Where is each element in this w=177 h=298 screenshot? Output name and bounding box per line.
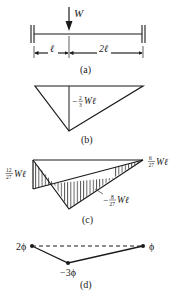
span-left-label: ℓ	[50, 43, 54, 54]
left-node-dot	[30, 244, 34, 248]
svg-text:12: 12	[6, 167, 12, 173]
svg-text:Wℓ: Wℓ	[156, 157, 168, 167]
svg-text:27: 27	[110, 201, 116, 207]
svg-text:6: 6	[149, 155, 152, 161]
load-label: W	[74, 7, 84, 19]
left-fixed-support	[31, 25, 34, 43]
right-moment-label: 6 27 Wℓ	[148, 155, 168, 168]
svg-text:−: −	[103, 195, 108, 205]
caption-b: (b)	[81, 134, 93, 146]
mid-moment-label: − 8 27 Wℓ	[103, 194, 129, 207]
moment-label-b: − 2 3 Wℓ	[72, 95, 96, 108]
mid-rotation-label: −3ϕ	[60, 267, 76, 278]
panel-b: − 2 3 Wℓ (b)	[35, 86, 143, 146]
svg-text:Wℓ: Wℓ	[14, 169, 26, 179]
caption-c: (c)	[82, 214, 93, 226]
panel-a: W ℓ 2ℓ (a)	[31, 7, 145, 76]
svg-text:Wℓ: Wℓ	[84, 96, 96, 106]
svg-text:3: 3	[79, 102, 82, 108]
svg-text:2: 2	[79, 95, 82, 101]
left-moment-label: 12 27 Wℓ	[6, 167, 26, 180]
panel-c: 12 27 Wℓ 6 27 Wℓ − 8 27 Wℓ (c)	[6, 155, 168, 226]
caption-a: (a)	[80, 64, 91, 76]
span-right-label: 2ℓ	[99, 43, 108, 54]
svg-text:27: 27	[149, 162, 155, 168]
load-arrow-icon	[66, 7, 73, 31]
left-rotation-label: 2ϕ	[16, 241, 26, 252]
right-rotation-label: ϕ	[149, 241, 154, 252]
rotation-polyline	[32, 246, 143, 263]
mid-node-dot	[66, 261, 70, 265]
panel-d: 2ϕ −3ϕ ϕ (d)	[16, 241, 154, 292]
svg-text:Wℓ: Wℓ	[117, 195, 129, 205]
svg-text:27: 27	[6, 174, 12, 180]
svg-text:8: 8	[111, 194, 114, 200]
free-moment-triangle	[35, 86, 143, 131]
right-fixed-support	[142, 25, 145, 43]
beam-diagram: W ℓ 2ℓ (a) − 2 3 Wℓ (b)	[0, 0, 177, 298]
svg-text:−: −	[72, 96, 77, 106]
right-node-dot	[141, 244, 145, 248]
caption-d: (d)	[80, 279, 92, 291]
